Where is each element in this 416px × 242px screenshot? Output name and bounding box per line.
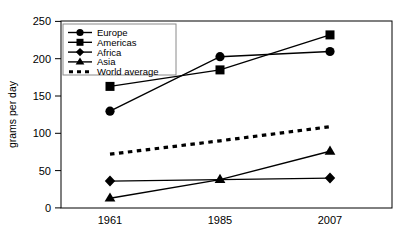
circle-marker (325, 47, 334, 56)
y-tick-label: 50 (39, 165, 51, 177)
line-chart: 250 200 150 100 50 0 gr (0, 0, 416, 242)
circle-marker (215, 52, 224, 61)
y-tick-label: 100 (33, 127, 51, 139)
square-marker (106, 82, 115, 91)
x-tick-label-1961: 1961 (98, 214, 122, 226)
legend-label: World average (97, 66, 159, 77)
circle-marker (105, 107, 114, 116)
x-tick-label-2007: 2007 (318, 214, 342, 226)
y-tick-label: 250 (33, 15, 51, 27)
circle-marker (76, 29, 83, 36)
y-tick-label: 200 (33, 53, 51, 65)
square-marker (77, 39, 84, 46)
y-tick-label: 150 (33, 90, 51, 102)
y-tick-label: 0 (45, 202, 51, 214)
chart-background (0, 0, 416, 242)
x-tick-label-1985: 1985 (208, 214, 232, 226)
chart-container: 250 200 150 100 50 0 gr (0, 0, 416, 242)
square-marker (216, 65, 225, 74)
y-axis-title: grams per day (6, 80, 18, 148)
chart-legend: Europe Americas Africa Asia World averag… (63, 24, 176, 77)
square-marker (326, 30, 335, 39)
